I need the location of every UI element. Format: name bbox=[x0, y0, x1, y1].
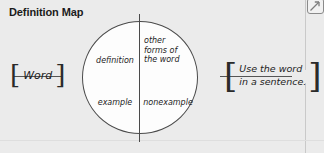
sentence-node-text: Use the word in a sentence. bbox=[237, 62, 308, 88]
quadrant-label-definition: definition bbox=[93, 56, 137, 66]
line-mask bbox=[198, 70, 220, 83]
word-node: [ Word ] bbox=[10, 62, 65, 88]
close-bracket: ] bbox=[55, 62, 65, 88]
vertical-divider-line bbox=[139, 14, 140, 142]
page-frame-bottom-border bbox=[0, 140, 324, 141]
close-bracket: ] bbox=[308, 58, 321, 92]
open-bracket: [ bbox=[10, 62, 20, 88]
sentence-node: [ Use the word in a sentence. ] bbox=[224, 58, 322, 92]
quadrant-label-other-forms: other forms of the word bbox=[144, 36, 190, 65]
word-node-text: Word bbox=[20, 69, 55, 82]
quadrant-label-nonexample: nonexample bbox=[141, 98, 195, 108]
open-bracket: [ bbox=[224, 58, 237, 92]
expand-arrow-glyph bbox=[309, 0, 322, 12]
quadrant-label-example: example bbox=[92, 98, 138, 108]
page-title: Definition Map bbox=[9, 6, 83, 18]
expand-arrow-icon[interactable] bbox=[307, 0, 324, 14]
definition-map-worksheet: Definition Map definition other forms of… bbox=[0, 0, 324, 153]
